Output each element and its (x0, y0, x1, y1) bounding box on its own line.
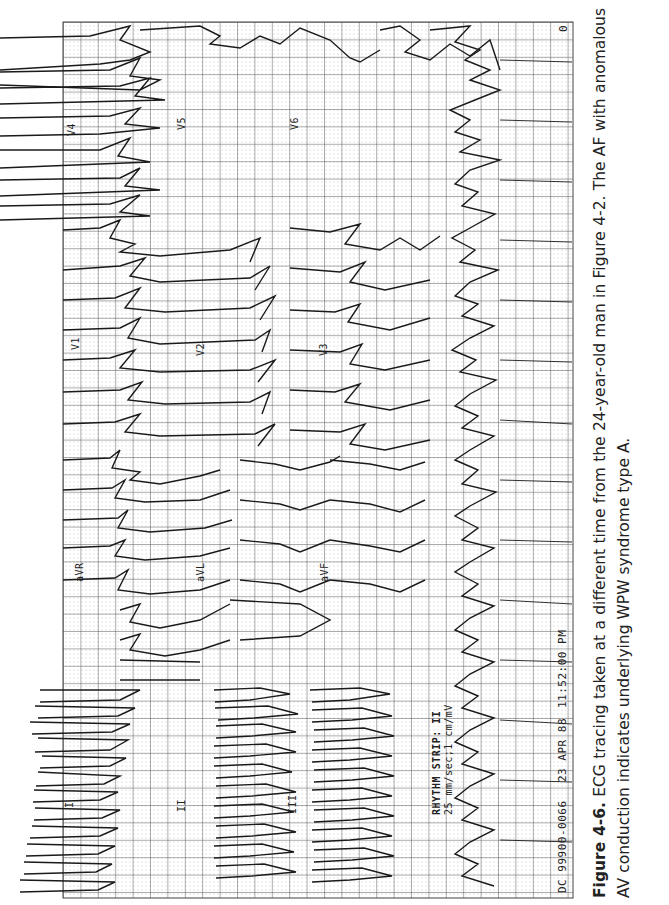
figure-caption-text: ECG tracing taken at a different time fr… (591, 8, 633, 898)
lead-label-i: I (64, 801, 75, 808)
ecg-footer-date: 23 APR 88 (556, 718, 569, 782)
figure-number: Figure 4-6. (591, 802, 609, 898)
rhythm-strip-settings: 25 mm/sec;1 cm/mV (443, 704, 454, 815)
ecg-tracing (0, 0, 580, 905)
lead-label-v1: V1 (70, 337, 81, 350)
ecg-footer-id: DC 99900-0066 (556, 800, 569, 893)
lead-label-ii: II (176, 799, 187, 812)
lead-label-avf: aVF (319, 562, 330, 582)
lead-label-iii: III (287, 794, 298, 814)
lead-label-v4: V4 (66, 123, 77, 136)
figure-caption: Figure 4-6. ECG tracing taken at a diffe… (588, 8, 636, 898)
ecg-footer-time: 11:52:00 PM (556, 630, 569, 708)
rhythm-strip-title: RHYTHM STRIP: II (431, 711, 442, 815)
ecg-page-marker: 0 (557, 25, 570, 32)
lead-label-avl: aVL (195, 562, 206, 582)
lead-label-v2: V2 (195, 343, 206, 356)
ecg-grid-major (63, 22, 573, 898)
lead-label-v3: V3 (318, 343, 329, 356)
lead-label-v5: V5 (176, 117, 187, 130)
lead-label-avr: aVR (74, 562, 85, 582)
ecg-figure: V4 V5 V6 V1 V2 V3 aVR aVL aVF I II III R… (0, 0, 580, 905)
lead-label-v6: V6 (289, 117, 300, 130)
